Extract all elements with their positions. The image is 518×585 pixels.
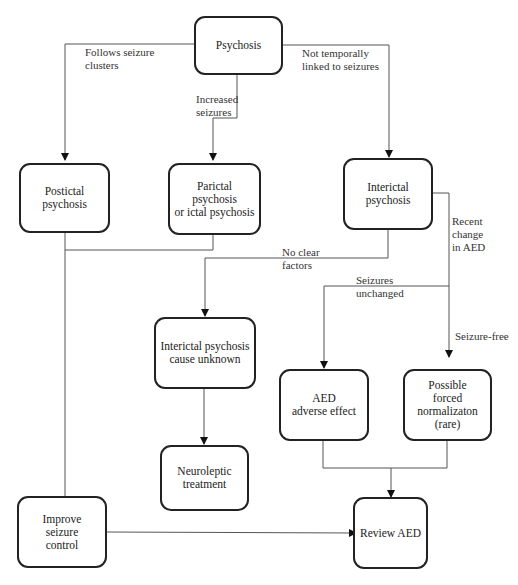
node-unknown-label: Interictal psychosis cause unknown [160,340,249,366]
node-psychosis-label: Psychosis [216,39,261,52]
node-psychosis: Psychosis [194,16,283,75]
node-interictal-label: Interictal psychosis [366,181,411,207]
node-postictal-label: Postictal psychosis [42,185,87,211]
label-increased-seizures: Increased seizures [196,93,238,119]
label-seizures-unchanged: Seizures unchanged [356,274,404,300]
node-parictal-label: Parictal psychosis or ictal psychosis [174,180,255,219]
node-postictal: Postictal psychosis [19,163,110,233]
label-no-clear-factors: No clear factors [282,246,320,272]
node-interictal: Interictal psychosis [343,158,433,230]
node-forced-normalization: Possible forced normalizaton (rare) [403,369,492,441]
label-seizure-free: Seizure-free [455,330,509,343]
node-aed-adverse-label: AED adverse effect [292,392,356,418]
node-review-aed: Review AED [353,497,428,569]
node-parictal: Parictal psychosis or ictal psychosis [168,163,261,235]
node-review-label: Review AED [360,527,421,540]
label-follows-clusters: Follows seizure clusters [85,46,154,72]
node-neuroleptic: Neuroleptic treatment [160,445,249,511]
node-neuroleptic-label: Neuroleptic treatment [177,465,231,491]
node-improve-label: Improve seizure control [43,513,82,552]
label-recent-change: Recent change in AED [452,215,485,254]
node-unknown: Interictal psychosis cause unknown [154,317,256,389]
node-forced-normalization-label: Possible forced normalizaton (rare) [417,379,478,431]
node-improve-seizure-control: Improve seizure control [17,496,107,568]
node-aed-adverse: AED adverse effect [279,369,369,441]
label-not-linked: Not temporally linked to seizures [302,47,379,73]
